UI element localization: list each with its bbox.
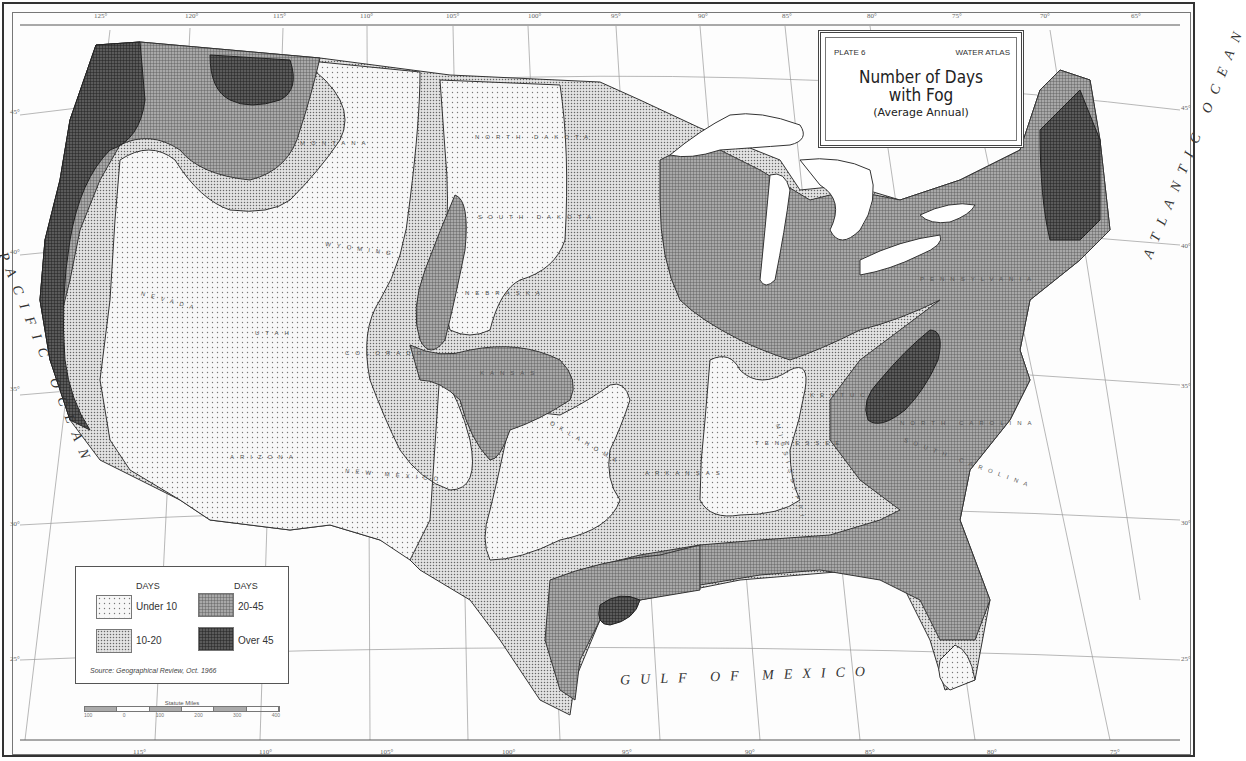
region-under10-mississippi: [700, 357, 806, 516]
state-label: PENNSYLVANIA: [920, 276, 1037, 282]
lon-label: 100°: [528, 12, 541, 20]
lat-label: 40°: [1181, 242, 1191, 250]
lon-label: 75°: [952, 12, 962, 20]
lon-label: 115°: [133, 748, 146, 756]
lon-label: 120°: [185, 12, 198, 20]
state-label: NEBRASKA: [465, 290, 546, 296]
state-label: NORTH CAROLINA: [900, 420, 1038, 426]
scale-tick: 100: [84, 712, 92, 718]
legend-swatch-under-10: [96, 595, 132, 619]
lat-label: 45°: [1181, 104, 1191, 112]
state-label: SOUTH DAKOTA: [478, 214, 597, 220]
lon-label: 95°: [622, 748, 632, 756]
plate-number: PLATE 6: [834, 48, 865, 57]
legend-label-over-45: Over 45: [238, 635, 274, 646]
lon-label: 90°: [745, 748, 755, 756]
state-label: MONTANA: [300, 140, 372, 146]
lon-label: 85°: [782, 12, 792, 20]
scale-tick: 0: [123, 712, 126, 718]
lon-label: 85°: [865, 748, 875, 756]
atlas-name: WATER ATLAS: [955, 48, 1010, 57]
lon-label: 110°: [360, 12, 373, 20]
title-line-1: Number of Days: [826, 68, 1016, 86]
lon-label: 70°: [1040, 12, 1050, 20]
scale-ticks: 100 0 100 200 300 400: [84, 712, 280, 718]
lon-label: 100°: [502, 748, 515, 756]
legend-source: Source: Geographical Review, Oct. 1966: [90, 667, 216, 674]
legend-label-under-10: Under 10: [136, 601, 177, 612]
state-label: NORTH DAKOTA: [475, 134, 594, 140]
map-subtitle: (Average Annual): [826, 106, 1016, 119]
scale-tick: 400: [272, 712, 280, 718]
state-label: TENNESSEE: [755, 440, 845, 446]
lat-label: 25°: [1181, 655, 1191, 663]
legend: DAYS DAYS Under 10 10-20 20-45 Over 45 S…: [75, 566, 289, 684]
state-label: KANSAS: [480, 370, 540, 376]
lat-label: 25°: [10, 655, 20, 663]
scale-bar: Statute Miles 100 0 100 200 300 400: [84, 700, 280, 718]
lon-label: 80°: [867, 12, 877, 20]
lon-label: 115°: [273, 12, 286, 20]
legend-label-20-45: 20-45: [238, 601, 264, 612]
lat-label: 35°: [1181, 382, 1191, 390]
lat-label: 35°: [10, 385, 20, 393]
legend-swatch-10-20: [96, 629, 132, 653]
state-label: KENTUCKY: [810, 392, 891, 398]
legend-label-10-20: 10-20: [136, 635, 162, 646]
map-title: Number of Days with Fog: [826, 68, 1016, 104]
lon-label: 110°: [259, 748, 272, 756]
scale-tick: 100: [156, 712, 164, 718]
lon-label: 65°: [1131, 12, 1141, 20]
state-label: ARKANSAS: [645, 470, 726, 476]
lon-label: 105°: [446, 12, 459, 20]
title-box: PLATE 6 WATER ATLAS Number of Days with …: [818, 30, 1024, 148]
scale-tick: 300: [233, 712, 241, 718]
legend-header-right: DAYS: [234, 581, 258, 591]
lon-label: 125°: [94, 12, 107, 20]
scale-tick: 200: [194, 712, 202, 718]
legend-swatch-over-45: [198, 627, 234, 651]
lon-label: 95°: [611, 12, 621, 20]
lon-label: 75°: [1110, 748, 1120, 756]
lat-label: 30°: [1181, 519, 1191, 527]
legend-swatch-20-45: [198, 593, 234, 617]
lon-label: 90°: [698, 12, 708, 20]
lon-label: 80°: [987, 748, 997, 756]
lon-label: 105°: [380, 748, 393, 756]
title-line-2: with Fog: [826, 86, 1016, 104]
state-label: UTAH: [255, 330, 295, 336]
lat-label: 30°: [10, 520, 20, 528]
legend-header-left: DAYS: [136, 581, 160, 591]
state-label: ARIZONA: [230, 454, 299, 460]
state-label: COLORADO: [345, 350, 427, 356]
lat-label: 45°: [10, 108, 20, 116]
